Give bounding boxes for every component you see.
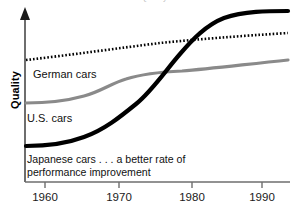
quality-trend-chart: Automobile Quality Trends Quality 1960 1… <box>0 0 292 204</box>
us-cars-label: U.S. cars <box>27 112 73 124</box>
x-tick-label-1960: 1960 <box>32 191 58 203</box>
japanese-cars-note-line-1: Japanese cars . . . a better rate of <box>27 153 185 165</box>
x-tick-label-1980: 1980 <box>179 191 205 203</box>
japanese-cars-note-line-2: performance improvement <box>27 166 151 178</box>
y-axis-arrow-icon <box>20 7 30 20</box>
german-cars-label: German cars <box>33 68 97 80</box>
plot-area: 1960 1970 1980 1990 German cars U.S. car… <box>0 0 292 204</box>
series-line-german-cars <box>26 33 288 60</box>
x-tick-label-1970: 1970 <box>106 191 132 203</box>
x-tick-label-1990: 1990 <box>249 191 275 203</box>
x-axis <box>25 182 290 188</box>
